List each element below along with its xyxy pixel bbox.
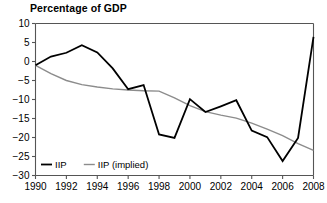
axis-lines: [36, 24, 314, 176]
y-axis-tick-labels: 1050−5−10−15−20−25−30: [13, 18, 30, 181]
chart-legend: IIPIIP (implied): [41, 159, 148, 170]
y-axis-tick-label: −25: [13, 151, 30, 162]
x-axis-tick-label: 2008: [302, 181, 325, 192]
series-line-iip: [36, 37, 314, 161]
x-axis-tick-label: 2000: [179, 181, 202, 192]
legend-label-iip: IIP: [55, 159, 67, 170]
y-axis-tick-label: −5: [18, 75, 30, 86]
x-axis-tick-label: 2006: [271, 181, 294, 192]
y-axis-tick-label: −15: [13, 113, 30, 124]
y-axis-tick-label: −30: [13, 170, 30, 181]
x-axis-tick-label: 1998: [148, 181, 171, 192]
legend-label-iip-implied: IIP (implied): [98, 159, 149, 170]
line-chart-svg: 1050−5−10−15−20−25−30 199019921994199619…: [0, 0, 327, 203]
data-series-group: [36, 37, 314, 161]
y-axis-tick-label: 0: [24, 56, 30, 67]
y-axis-tick-label: −20: [13, 132, 30, 143]
x-axis-tick-label: 1992: [55, 181, 78, 192]
y-axis-tick-label: 10: [18, 18, 30, 29]
x-axis-tick-label: 2004: [241, 181, 264, 192]
y-axis-tick-label: −10: [13, 94, 30, 105]
x-axis-tick-label: 1990: [24, 181, 47, 192]
plot-area: 1050−5−10−15−20−25−30 199019921994199619…: [0, 0, 327, 203]
chart-figure: Percentage of GDP 1050−5−10−15−20−25−30 …: [0, 0, 327, 203]
x-axis-tick-label: 2002: [210, 181, 233, 192]
x-axis-tick-label: 1994: [86, 181, 109, 192]
x-axis-tick-labels: 1990199219941996199820002002200420062008: [24, 181, 325, 192]
x-axis-tick-label: 1996: [117, 181, 140, 192]
y-axis-tick-label: 5: [24, 37, 30, 48]
